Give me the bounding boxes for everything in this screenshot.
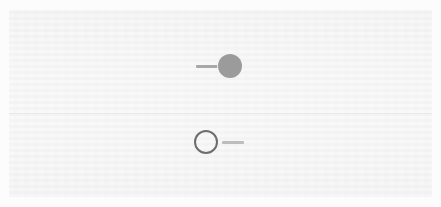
hollow-ring-marker[interactable]: [194, 130, 252, 158]
hollow-ring-leader-line: [222, 141, 244, 144]
panel-seam-divider: [9, 113, 432, 114]
filled-disc-marker[interactable]: [196, 46, 260, 88]
filled-disc-leader-line: [196, 65, 220, 68]
filled-disc-icon[interactable]: [218, 54, 242, 78]
screenshot-root: [0, 0, 441, 207]
marker-legend-panel: [9, 10, 432, 197]
hollow-ring-icon[interactable]: [194, 130, 218, 154]
panel-texture-overlay: [9, 10, 432, 197]
